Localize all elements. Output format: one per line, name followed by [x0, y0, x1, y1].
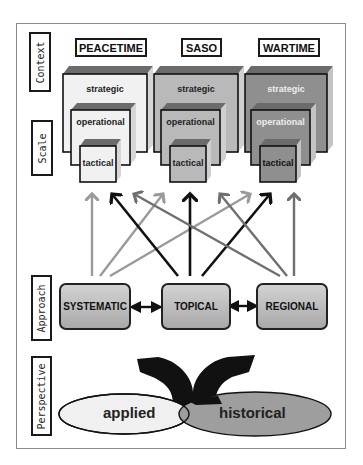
approach-systematic: SYSTEMATIC — [59, 283, 131, 330]
peacetime-operational-label: operational — [71, 117, 130, 127]
saso-tactical-label: tactical — [170, 158, 206, 168]
regional-arrows — [134, 194, 294, 276]
wartime-tactical-label: tactical — [260, 158, 296, 168]
saso-strategic-label: strategic — [154, 84, 238, 94]
wartime-operational-label: operational — [251, 117, 310, 127]
wartime-strategic-label: strategic — [245, 84, 327, 94]
diagram-graphics — [0, 0, 363, 465]
systematic-arrows — [92, 194, 250, 276]
peacetime-tactical-label: tactical — [80, 158, 116, 168]
approach-topical: TOPICAL — [161, 283, 231, 330]
approach-regional: REGIONAL — [256, 283, 328, 330]
perspective-applied-label: applied — [103, 404, 156, 421]
topical-arrows — [112, 194, 270, 276]
saso-operational-label: operational — [161, 117, 220, 127]
perspective-historical-label: historical — [219, 404, 286, 421]
peacetime-strategic-label: strategic — [63, 84, 147, 94]
